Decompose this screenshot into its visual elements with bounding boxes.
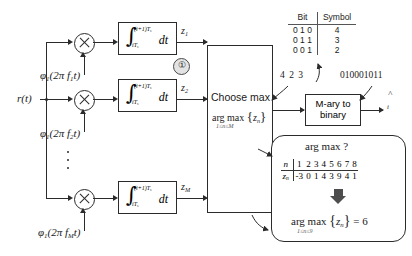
annotation-curves: [0, 0, 412, 256]
diagram-canvas: r(t) ∫ (i+1)Ts iTs dt z1 φ1(2π f1t) ∫ (i: [0, 0, 412, 256]
